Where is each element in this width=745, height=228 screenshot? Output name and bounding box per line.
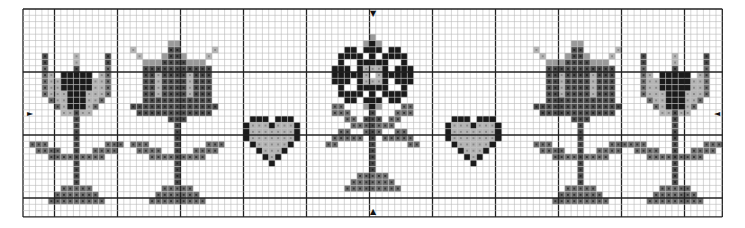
center-marker-right-icon: ◄ bbox=[714, 110, 720, 118]
cross-stitch-chart bbox=[0, 0, 745, 228]
center-marker-left-icon: ► bbox=[27, 110, 33, 118]
center-marker-bottom-icon: ▲ bbox=[370, 208, 376, 216]
center-marker-top-icon: ▼ bbox=[370, 10, 376, 18]
